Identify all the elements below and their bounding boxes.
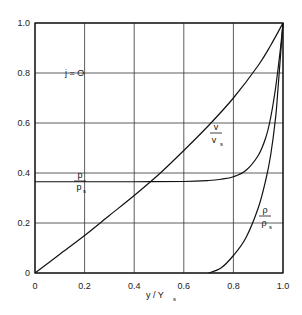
curve-density-ratio [209,23,283,273]
plot-frame [35,23,283,273]
label-rho-denominator: ρ [261,218,266,228]
axis-tick-labels: 00.20.40.60.81.000.20.40.60.81.0 [17,18,289,291]
j-annotation: j = O [64,68,84,78]
y-tick-label: 0.4 [17,168,30,178]
y-tick-label: 0.8 [17,68,30,78]
y-tick-label: 0 [25,268,30,278]
data-curves [35,23,283,273]
x-axis-label-main: y / Y [146,290,164,300]
x-tick-label: 0.2 [78,281,91,291]
label-rho-subscript: s [269,224,272,230]
x-tick-label: 0.6 [178,281,191,291]
label-v-numerator: v [214,122,219,132]
y-tick-label: 1.0 [17,18,30,28]
y-tick-label: 0.6 [17,118,30,128]
series-label-rho: ρ ρ s [259,205,272,230]
curve-pressure-ratio [35,23,283,182]
x-tick-label: 0 [32,281,37,291]
x-tick-label: 0.8 [227,281,240,291]
label-p-denominator: p [76,182,81,192]
label-v-subscript: s [220,141,223,147]
plot-border [35,23,283,273]
x-axis-label-subscript: s [173,296,176,302]
curve-velocity-ratio [35,23,283,273]
label-v-denominator: v [212,135,217,145]
x-axis-label: y / Y s [146,290,176,302]
label-p-numerator: p [77,170,82,180]
y-tick-label: 0.2 [17,218,30,228]
x-tick-label: 0.4 [128,281,141,291]
line-chart: 00.20.40.60.81.000.20.40.60.81.0 j = O v… [0,0,302,315]
label-rho-numerator: ρ [262,205,267,215]
x-tick-label: 1.0 [277,281,290,291]
series-label-v: v v s [210,122,223,147]
grid-lines [35,23,283,273]
label-p-subscript: s [83,188,86,194]
